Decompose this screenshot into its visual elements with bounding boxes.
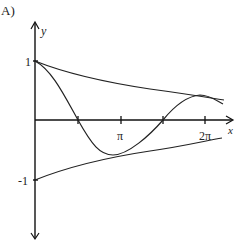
x-axis-label: x [227,124,233,136]
x-axis [35,116,233,124]
x-tick-label-pi: π [117,129,123,143]
lower-envelope-curve [35,138,222,180]
panel-label: A) [1,3,15,18]
y-tick-label-1: 1 [25,55,31,69]
y-tick-label-neg1: -1 [18,174,28,188]
chart: A) y 1 -1 x π 2π [0,0,237,241]
y-axis-label: y [40,24,47,38]
damped-oscillation-curve [35,61,223,155]
y-axis [31,22,39,239]
